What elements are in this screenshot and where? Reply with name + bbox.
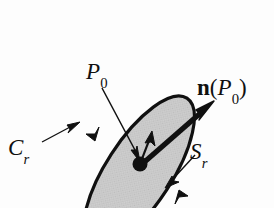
label-surface: Sr xyxy=(190,140,207,167)
label-surface-subscript: r xyxy=(202,155,208,171)
cr-leader-arrowhead xyxy=(67,122,80,133)
label-normal-vector-symbol: n xyxy=(197,75,210,100)
label-boundary-curve: Cr xyxy=(8,136,29,163)
label-boundary-curve-base: C xyxy=(8,135,23,160)
boundary-orientation-arrow-right xyxy=(175,190,188,204)
label-point-p0-base: P xyxy=(86,59,100,84)
label-point-p0-subscript: 0 xyxy=(100,75,107,91)
label-surface-base: S xyxy=(190,139,202,164)
label-boundary-curve-subscript: r xyxy=(23,151,29,167)
label-normal-close-paren: ) xyxy=(239,75,247,100)
label-normal-arg-base: P xyxy=(217,75,231,100)
cr-leader-line xyxy=(42,126,72,142)
label-normal-arg-subscript: 0 xyxy=(232,91,239,107)
boundary-orientation-arrow-left xyxy=(86,127,99,141)
point-p0-dot xyxy=(133,157,148,172)
label-normal-vector: n(P0) xyxy=(197,76,247,103)
label-point-p0: P0 xyxy=(86,60,107,87)
figure-container: P0 n(P0) Cr Sr xyxy=(0,0,274,208)
